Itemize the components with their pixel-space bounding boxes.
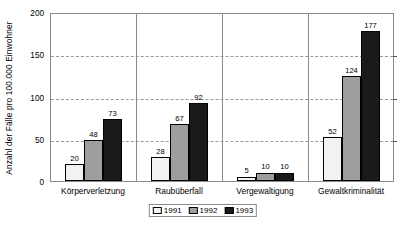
bar-value-vergewaltigung-1991: 5: [244, 166, 248, 175]
y-tick-150: 150: [18, 51, 48, 60]
plot-area: 20 48 73 28 67 92 5: [50, 13, 394, 182]
x-axis-category-labels: Körperverletzung Raubüberfall Vergewalti…: [50, 186, 394, 200]
bar-value-raubueberfall-1991: 28: [156, 147, 164, 156]
bar-group-gewaltkriminalitaet: 52 124 177: [309, 14, 395, 181]
bar-koerperverletzung-1993[interactable]: [103, 119, 122, 181]
bar-group-vergewaltigung: 5 10 10: [223, 14, 309, 181]
bar-value-gewaltkriminalitaet-1991: 52: [328, 127, 336, 136]
legend-swatch-1992-icon: [189, 207, 198, 214]
legend-item-1991[interactable]: 1991: [153, 207, 182, 215]
bar-value-vergewaltigung-1992: 10: [261, 162, 269, 171]
x-label-koerperverletzung: Körperverletzung: [61, 186, 125, 196]
legend-item-1993[interactable]: 1993: [224, 207, 253, 215]
y-axis-title: Anzahl der Fälle pro 100.000 Einwohner: [0, 0, 18, 195]
y-tick-0: 0: [18, 178, 48, 187]
bar-koerperverletzung-1992[interactable]: [84, 140, 103, 181]
y-tick-100: 100: [18, 93, 48, 102]
bar-group-koerperverletzung: 20 48 73: [51, 14, 137, 181]
bar-vergewaltigung-1992[interactable]: [256, 173, 275, 181]
legend-swatch-1991-icon: [153, 207, 162, 214]
legend-swatch-1993-icon: [224, 207, 233, 214]
bar-value-koerperverletzung-1992: 48: [89, 130, 97, 139]
x-label-vergewaltigung: Vergewaltigung: [236, 186, 293, 196]
y-tick-50: 50: [18, 135, 48, 144]
bar-value-koerperverletzung-1991: 20: [70, 154, 78, 163]
legend-item-1992[interactable]: 1992: [189, 207, 218, 215]
bar-raubueberfall-1992[interactable]: [170, 124, 189, 181]
y-axis-tick-labels: 200 150 100 50 0: [18, 0, 48, 228]
bar-gewaltkriminalitaet-1991[interactable]: [323, 137, 342, 181]
bar-value-vergewaltigung-1993: 10: [280, 162, 288, 171]
bar-raubueberfall-1991[interactable]: [151, 157, 170, 181]
bar-koerperverletzung-1991[interactable]: [65, 164, 84, 181]
legend-label-1992: 1992: [200, 207, 218, 215]
bar-value-gewaltkriminalitaet-1993: 177: [364, 21, 377, 30]
bar-value-koerperverletzung-1993: 73: [108, 109, 116, 118]
chart-legend: 1991 1992 1993: [149, 204, 257, 217]
bar-raubueberfall-1993[interactable]: [189, 103, 208, 181]
x-label-raubueberfall: Raubüberfall: [155, 186, 203, 196]
legend-label-1993: 1993: [235, 207, 253, 215]
bar-groups: 20 48 73 28 67 92 5: [51, 14, 393, 181]
x-label-gewaltkriminalitaet: Gewaltkriminalität: [318, 186, 384, 196]
bar-value-raubueberfall-1993: 92: [194, 93, 202, 102]
bar-group-raubueberfall: 28 67 92: [137, 14, 223, 181]
bar-vergewaltigung-1993[interactable]: [275, 173, 294, 181]
y-axis-title-text: Anzahl der Fälle pro 100.000 Einwohner: [4, 21, 14, 174]
bar-chart: Anzahl der Fälle pro 100.000 Einwohner 2…: [0, 0, 406, 228]
bar-gewaltkriminalitaet-1993[interactable]: [361, 31, 380, 181]
legend-label-1991: 1991: [164, 207, 182, 215]
bar-gewaltkriminalitaet-1992[interactable]: [342, 76, 361, 181]
y-tick-200: 200: [18, 9, 48, 18]
bar-value-raubueberfall-1992: 67: [175, 114, 183, 123]
bar-value-gewaltkriminalitaet-1992: 124: [345, 66, 358, 75]
bar-vergewaltigung-1991[interactable]: [237, 177, 256, 181]
